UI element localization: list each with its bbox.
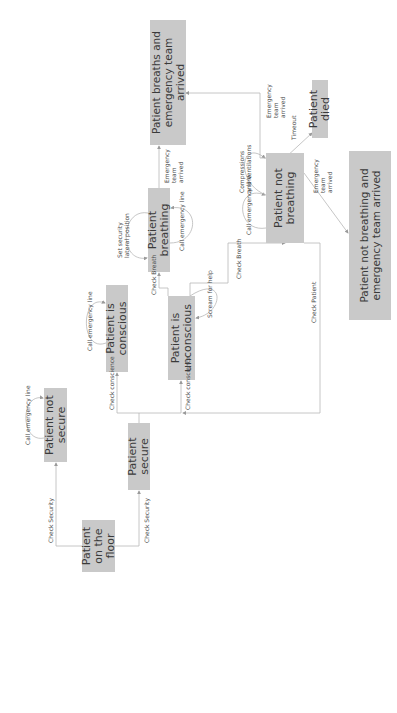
- edge-secure-conscious: [117, 373, 139, 423]
- edge-label-check-breath-2: Check Breath: [235, 239, 242, 279]
- edge-label-call-emergency-conscious: Call emergency line: [86, 291, 93, 351]
- edge-label-set-security-lateral-position: Set security lateral position: [116, 210, 130, 258]
- edge-label-check-conscience-1: Check conscience: [108, 356, 115, 410]
- state-diagram-canvas: Patient on the floor Patient not secure …: [0, 0, 397, 713]
- edge-label-call-emergency-breathing: Call emergency line: [178, 191, 185, 251]
- edge-floor-secure: [115, 491, 139, 546]
- edge-label-emergency-team-arrived-3: Emergency team arrived: [312, 161, 333, 193]
- edge-unconscious-breathing: [159, 273, 168, 296]
- node-patient-died: Patient died: [312, 80, 328, 138]
- edge-not-breathing-breaths-team: [186, 93, 266, 158]
- edge-label-check-breath-1: Check Breath: [150, 255, 157, 295]
- edge-label-emergency-team-arrived-1: Emergency team arrived: [163, 151, 184, 183]
- edge-secure-unconscious: [139, 381, 181, 413]
- edge-label-compressions-and-ventilations: Compressions and Ventilations: [238, 143, 252, 193]
- node-patient-not-breathing: Patient not breathing: [266, 153, 304, 243]
- edge-layer: [0, 0, 397, 713]
- edge-label-check-conscience-2: Check conscience: [184, 356, 191, 410]
- edge-label-call-emergency-not-secure: Call emergency line: [24, 385, 31, 445]
- edge-label-check-patient: Check Patient: [310, 282, 317, 323]
- edge-label-check-security-2: Check Security: [143, 498, 150, 543]
- node-patient-not-secure: Patient not secure: [44, 388, 67, 462]
- edge-label-timeout: Timeout: [290, 115, 297, 140]
- edge-label-check-security-1: Check Security: [47, 498, 54, 543]
- edge-label-emergency-team-arrived-2: Emergency team arrived: [265, 84, 286, 118]
- node-patient-not-breathing-and-emergency-team-arrived: Patient not breathing and emergency team…: [349, 151, 391, 320]
- node-patient-secure: Patient secure: [128, 423, 150, 490]
- edge-floor-not-secure: [56, 463, 82, 546]
- edge-not-breathing-secure-check-patient: [183, 243, 320, 413]
- node-patient-on-the-floor: Patient on the floor: [82, 520, 115, 572]
- node-patient-breaths-and-emergency-team-arrived: Patient breaths and emergency team arriv…: [150, 20, 186, 145]
- edge-label-scream-for-help: Scream for help: [206, 270, 213, 318]
